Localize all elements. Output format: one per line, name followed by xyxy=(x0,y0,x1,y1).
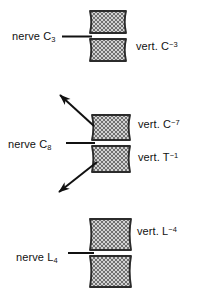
label-vert-l4-superscript: −4 xyxy=(168,225,177,234)
label-nerve-l4-text: nerve L xyxy=(16,251,53,263)
arrow-lower-left xyxy=(59,162,97,192)
label-nerve-l4-subscript: 4 xyxy=(53,256,57,265)
vertebra-block-c3-upper xyxy=(90,11,126,33)
vertebra-group-cervical-upper xyxy=(62,11,126,61)
vertebra-block-t1 xyxy=(92,146,130,172)
label-nerve-c8-text: nerve C xyxy=(8,138,47,150)
label-vert-l4: vert. L−4 xyxy=(137,226,177,237)
label-vert-c3-superscript: −3 xyxy=(169,40,178,49)
vertebra-group-cervicothoracic xyxy=(59,95,130,192)
label-nerve-c8-subscript: 8 xyxy=(47,143,51,152)
label-vert-c7: vert. C−7 xyxy=(138,119,180,130)
vertebra-block-l4-lower xyxy=(90,256,131,287)
spinal-nerve-vertebra-diagram: nerve C3 vert. C−3 nerve C8 vert. C−7 ve… xyxy=(0,0,205,298)
label-vert-c7-text: vert. C xyxy=(138,118,171,130)
vertebra-group-lumbar xyxy=(68,219,131,287)
arrow-upper-left xyxy=(60,95,94,126)
vertebra-block-l4-upper xyxy=(90,219,131,250)
vertebra-block-c7 xyxy=(92,115,130,140)
label-vert-l4-text: vert. L xyxy=(137,225,168,237)
label-vert-c3-text: vert. C xyxy=(136,40,169,52)
label-nerve-c3: nerve C3 xyxy=(12,31,55,42)
label-nerve-c3-subscript: 3 xyxy=(51,35,55,44)
label-vert-c3: vert. C−3 xyxy=(136,41,178,52)
vertebra-block-c3-lower xyxy=(90,39,126,61)
label-vert-t1-superscript: −1 xyxy=(170,151,179,160)
label-nerve-l4: nerve L4 xyxy=(16,252,58,263)
label-nerve-c3-text: nerve C xyxy=(12,30,51,42)
label-vert-t1-text: vert. T xyxy=(138,151,170,163)
label-vert-c7-superscript: −7 xyxy=(171,118,180,127)
label-vert-t1: vert. T−1 xyxy=(138,152,178,163)
label-nerve-c8: nerve C8 xyxy=(8,139,51,150)
